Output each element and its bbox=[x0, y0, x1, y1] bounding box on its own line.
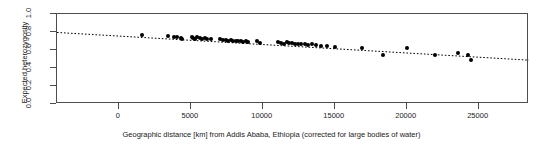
data-point bbox=[166, 34, 170, 38]
data-point bbox=[360, 46, 364, 50]
x-axis-tick-label: 5000 bbox=[181, 112, 198, 120]
data-point bbox=[456, 51, 460, 55]
data-point bbox=[433, 53, 437, 57]
data-point bbox=[333, 45, 337, 49]
data-point bbox=[258, 41, 262, 45]
x-axis-tick-label: 20000 bbox=[395, 112, 416, 120]
data-point bbox=[469, 58, 473, 62]
data-point bbox=[319, 44, 323, 48]
data-point bbox=[180, 37, 184, 41]
data-point bbox=[246, 40, 250, 44]
x-axis-tick-label: 25000 bbox=[467, 112, 488, 120]
data-points-layer bbox=[57, 14, 527, 102]
data-point bbox=[325, 44, 329, 48]
x-axis-tick-label: 10000 bbox=[251, 112, 272, 120]
data-point bbox=[209, 37, 213, 41]
data-point bbox=[466, 53, 470, 57]
x-axis-label: Geographic distance [km] from Addis Abab… bbox=[0, 130, 543, 139]
data-point bbox=[381, 53, 385, 57]
y-axis-tick bbox=[50, 103, 56, 104]
data-point bbox=[314, 43, 318, 47]
x-axis-tick-label: 15000 bbox=[323, 112, 344, 120]
data-point bbox=[405, 46, 409, 50]
plot-area bbox=[56, 13, 528, 103]
scatter-plot-figure: Expected heterozygosity 0.00.20.40.60.81… bbox=[0, 0, 543, 150]
y-axis-tick-label: 1.0 bbox=[14, 8, 44, 18]
x-axis-tick-label: 0 bbox=[116, 112, 120, 120]
data-point bbox=[140, 33, 144, 37]
